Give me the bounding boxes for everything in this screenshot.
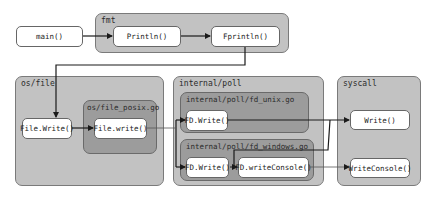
node-fprintln-label: Fprintln(): [223, 32, 268, 41]
group-fd-windows-label: internal/poll/fd_windows.go: [186, 142, 308, 151]
node-fd-write-unix: FD.Write(): [186, 110, 228, 131]
group-syscall-label: syscall: [343, 79, 377, 88]
node-file-write-internal: File.write(): [94, 118, 147, 139]
node-main: main(): [16, 26, 83, 47]
group-fmt-label: fmt: [101, 16, 115, 25]
group-internal-poll-label: internal/poll: [179, 79, 242, 88]
node-println-label: Println(): [127, 32, 168, 41]
node-fd-write-unix-label: FD.Write(): [184, 116, 229, 125]
node-file-write-exported: File.Write(): [22, 118, 72, 139]
node-fd-write-windows-label: FD.Write(): [185, 163, 230, 172]
node-syscall-write-console: WriteConsole(): [350, 158, 410, 178]
node-syscall-write: Write(): [350, 110, 410, 130]
node-main-label: main(): [36, 32, 63, 41]
node-file-write-exported-label: File.Write(): [20, 124, 74, 133]
group-os-file-label: os/file: [21, 79, 55, 88]
node-println: Println(): [113, 26, 181, 47]
node-fd-write-console-label: FD.writeConsole(): [235, 163, 312, 172]
node-fd-write-windows: FD.Write(): [186, 157, 229, 178]
node-syscall-write-label: Write(): [364, 116, 396, 125]
node-fprintln: Fprintln(): [211, 26, 280, 47]
node-syscall-write-console-label: WriteConsole(): [348, 164, 411, 173]
group-fd-unix-label: internal/poll/fd_unix.go: [186, 95, 294, 104]
node-file-write-internal-label: File.write(): [93, 124, 147, 133]
group-os-file-posix-label: os/file_posix.go: [87, 103, 159, 112]
node-fd-write-console: FD.writeConsole(): [238, 157, 309, 178]
